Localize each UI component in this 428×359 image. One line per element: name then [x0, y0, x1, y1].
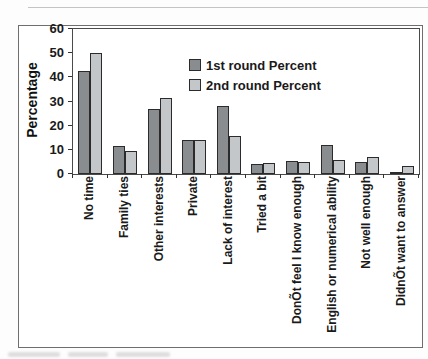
caption-smudge: [116, 352, 170, 357]
x-category-label: DidnÕt want to answer: [394, 176, 408, 341]
bar-round1: [148, 109, 160, 174]
bar-round2: [125, 151, 137, 174]
bar-round2: [402, 166, 414, 174]
y-axis-tick-label: 40: [34, 70, 64, 83]
x-category-label: DonÕt feel I know enough: [290, 176, 304, 341]
x-category-label: Family ties: [117, 176, 131, 341]
x-axis-tick: [383, 174, 384, 178]
x-axis-tick: [349, 174, 350, 178]
plot-area: [72, 28, 420, 175]
y-axis-tick: [68, 149, 72, 150]
bar-round2: [333, 160, 345, 174]
bar-round1: [182, 140, 194, 174]
x-axis-tick: [210, 174, 211, 178]
bar-round1: [390, 172, 402, 174]
y-axis-tick-label: 30: [34, 95, 64, 108]
y-axis-tick-label: 20: [34, 119, 64, 132]
bar-round1: [355, 162, 367, 174]
legend-label: 2nd round Percent: [206, 78, 321, 93]
legend-swatch-icon: [189, 79, 201, 91]
caption-smudge: [8, 352, 60, 357]
x-axis-tick: [141, 174, 142, 178]
legend-swatch-icon: [189, 59, 201, 71]
x-category-label: Tried a bit: [255, 176, 269, 341]
x-axis-tick: [245, 174, 246, 178]
legend: 1st round Percent2nd round Percent: [189, 55, 321, 95]
legend-entry: 2nd round Percent: [189, 75, 321, 95]
x-axis-tick: [107, 174, 108, 178]
bar-round2: [263, 163, 275, 174]
y-axis-tick: [68, 52, 72, 53]
x-axis-tick: [280, 174, 281, 178]
x-category-label: Private: [186, 176, 200, 341]
bar-round2: [229, 136, 241, 174]
scanned-chart-page: Percentage 0102030405060 No timeFamily t…: [0, 0, 428, 359]
y-axis-tick: [68, 28, 72, 29]
bar-round1: [321, 145, 333, 174]
y-axis-tick-label: 0: [34, 167, 64, 180]
y-axis-tick: [68, 76, 72, 77]
x-axis-tick: [72, 174, 73, 178]
bar-round2: [90, 53, 102, 174]
bar-round2: [298, 162, 310, 174]
x-axis-tick: [418, 174, 419, 178]
bar-round1: [251, 164, 263, 174]
y-axis-tick-label: 10: [34, 143, 64, 156]
caption-smudge: [68, 352, 108, 357]
legend-entry: 1st round Percent: [189, 55, 321, 75]
x-category-label: Lack of interest: [221, 176, 235, 341]
bar-round1: [217, 106, 229, 174]
y-axis-tick: [68, 101, 72, 102]
scan-artifact-line: [28, 7, 428, 8]
bar-round1: [113, 146, 125, 174]
x-axis-tick: [314, 174, 315, 178]
bar-round2: [367, 157, 379, 174]
x-axis-tick: [176, 174, 177, 178]
x-category-label: Other interests: [152, 176, 166, 341]
bar-round2: [194, 140, 206, 174]
y-axis-tick: [68, 125, 72, 126]
bar-round1: [78, 71, 90, 174]
x-category-label: No time: [82, 176, 96, 341]
x-category-label: English or numerical ability: [325, 176, 339, 341]
bar-round2: [160, 98, 172, 174]
legend-label: 1st round Percent: [206, 58, 317, 73]
y-axis-tick-label: 50: [34, 46, 64, 59]
y-axis-tick-label: 60: [34, 22, 64, 35]
x-category-label: Not well enough: [359, 176, 373, 341]
bar-round1: [286, 161, 298, 174]
